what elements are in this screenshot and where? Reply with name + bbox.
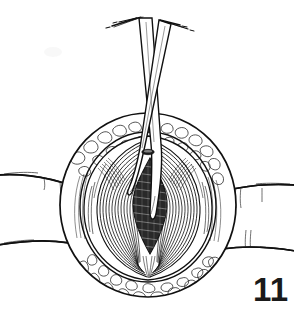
surgical-illustration: [0, 0, 294, 320]
figure-number-label: 11: [253, 273, 288, 306]
scissors-pivot-screw: [142, 149, 154, 154]
figure-container: 11: [0, 0, 294, 320]
scan-artifact: [44, 47, 62, 57]
